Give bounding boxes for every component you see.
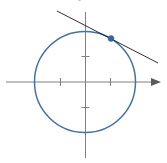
tangency-point (108, 36, 114, 42)
geometry-figure: x2 + y2 = 25 (0, 0, 167, 163)
x-axis-arrow-icon (151, 78, 161, 86)
tangent-line (57, 11, 158, 63)
circle-tangent-plot (0, 0, 167, 163)
